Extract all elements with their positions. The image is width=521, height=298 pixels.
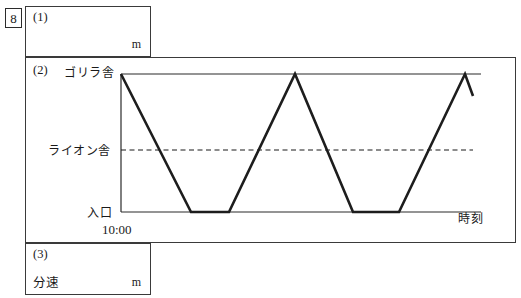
question-number-badge: 8 — [5, 8, 22, 28]
graph-panel: (2) ゴリラ舎 ライオン舎 入口 時刻 10:00 — [25, 57, 516, 243]
answer-box-1[interactable]: (1) m — [25, 6, 151, 57]
x-axis-label-time: 時刻 — [458, 213, 483, 225]
answer-box-3-unit: m — [132, 276, 141, 288]
y-label-lion-house: ライオン舎 — [48, 145, 111, 157]
answer-box-1-unit: m — [132, 38, 141, 50]
answer-box-3-prefix: 分速 — [33, 277, 59, 290]
y-label-gorilla-house: ゴリラ舎 — [64, 67, 114, 79]
y-label-entrance: 入口 — [87, 207, 112, 219]
answer-box-1-tag: (1) — [33, 11, 48, 24]
answer-box-3-tag: (3) — [33, 248, 48, 261]
x-axis-start-tick-label: 10:00 — [102, 223, 132, 236]
worksheet-page: 8 (1) m (2) ゴリラ舎 ライオン舎 入口 時刻 10:00 (3) 分… — [0, 0, 521, 298]
travel-path-line — [121, 74, 473, 212]
answer-box-3[interactable]: (3) 分速 m — [25, 243, 151, 295]
